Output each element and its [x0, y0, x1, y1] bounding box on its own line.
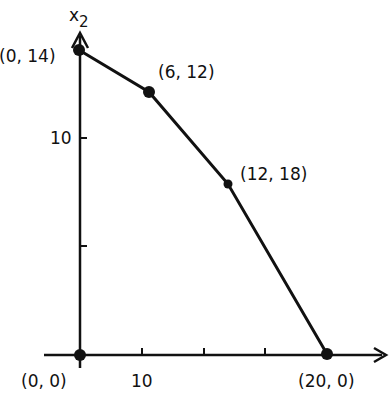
label-p1: (6, 12) — [158, 62, 215, 82]
label-p3: (20, 0) — [298, 371, 355, 391]
label-p0: (0, 14) — [0, 46, 56, 66]
x-tick-label-10: 10 — [131, 371, 153, 391]
chart: x2 (0, 14) (6, 12) (12, 18) (20, 0) (0, … — [0, 0, 391, 406]
y-tick-label-10: 10 — [50, 128, 72, 148]
point-6-12 — [143, 86, 155, 98]
point-20-0 — [321, 348, 333, 360]
point-origin — [74, 349, 86, 361]
point-12-18 — [224, 180, 233, 189]
boundary-line — [79, 50, 327, 354]
point-0-14 — [73, 44, 85, 56]
label-origin: (0, 0) — [21, 371, 67, 391]
label-p2: (12, 18) — [240, 164, 307, 184]
y-axis-label: x2 — [69, 5, 89, 31]
